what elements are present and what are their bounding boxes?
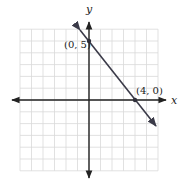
point-4-0-label: (4, 0) xyxy=(136,85,163,96)
x-axis-label: x xyxy=(171,94,178,107)
point-4-0 xyxy=(133,98,137,102)
y-axis-label: y xyxy=(85,3,93,16)
point-0-5-label: (0, 5) xyxy=(64,39,91,50)
coordinate-plane: (0, 5) (4, 0) x y xyxy=(0,0,188,184)
